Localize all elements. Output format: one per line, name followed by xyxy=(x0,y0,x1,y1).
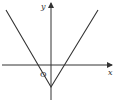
function-graph-diagram: y x O xyxy=(0,0,119,102)
origin-label: O xyxy=(40,70,47,79)
absolute-value-curve xyxy=(6,10,98,87)
y-axis-label: y xyxy=(40,2,46,11)
x-axis-label: x xyxy=(108,68,113,77)
